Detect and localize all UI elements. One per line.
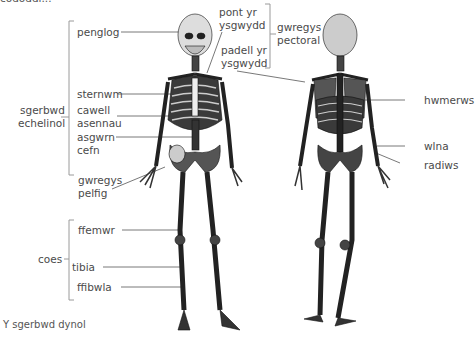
label-cawell-2: asennau xyxy=(77,117,122,129)
label-asgwrn-1: asgwrn xyxy=(77,131,115,143)
label-gwregys-pelfig-1: gwregys xyxy=(78,174,122,186)
label-gwregys-pectoral-2: pectoral xyxy=(277,34,320,46)
label-gwregys-pectoral-1: gwregys xyxy=(277,21,321,33)
figure-caption: Y sgerbwd dynol xyxy=(3,319,86,330)
label-padell-2: ysgwydd xyxy=(221,57,267,69)
back-skeleton xyxy=(295,14,390,326)
group-sgerbwd-2: echelinol xyxy=(18,117,65,129)
label-sternwm: sternwm xyxy=(77,88,123,100)
label-tibia: tibia xyxy=(72,261,95,273)
label-penglog: penglog xyxy=(77,26,119,38)
label-cawell-1: cawell xyxy=(77,104,110,116)
label-asgwrn-2: cefn xyxy=(77,144,100,156)
group-sgerbwd-1: sgerbwd xyxy=(20,104,65,116)
label-pont-1: pont yr xyxy=(219,6,257,18)
label-radiws: radiws xyxy=(424,159,458,171)
group-coes: coes xyxy=(38,253,62,265)
label-ffemwr: ffemwr xyxy=(78,224,115,236)
label-pont-2: ysgwydd xyxy=(219,19,265,31)
label-wlna: wlna xyxy=(424,140,449,152)
label-ffibwla: ffibwla xyxy=(77,281,112,293)
label-padell-1: padell yr xyxy=(221,44,267,56)
label-hwmerws: hwmerws xyxy=(424,94,474,106)
label-gwregys-pelfig-2: pelfig xyxy=(78,187,107,199)
